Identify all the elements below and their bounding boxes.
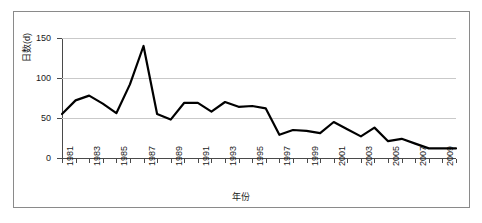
x-tick-mark-2007 (415, 159, 416, 163)
x-tick-mark-1994 (239, 159, 240, 163)
line-series-日数 (62, 38, 456, 158)
x-tick-mark-2005 (388, 159, 389, 163)
x-tick-mark-1982 (76, 159, 77, 163)
x-tick-mark-1983 (89, 159, 90, 163)
x-tick-mark-2004 (374, 159, 375, 163)
x-tick-mark-1981 (62, 159, 63, 163)
x-tick-mark-1992 (211, 159, 212, 163)
x-tick-mark-2006 (402, 159, 403, 163)
x-tick-mark-2009 (442, 159, 443, 163)
x-tick-mark-1993 (225, 159, 226, 163)
x-tick-mark-2000 (320, 159, 321, 163)
y-tick-label-50: 50 (17, 114, 51, 123)
x-tick-mark-1999 (307, 159, 308, 163)
y-tick-label-0: 0 (17, 154, 51, 163)
x-axis-title: 年份 (0, 190, 482, 203)
x-tick-mark-1995 (252, 159, 253, 163)
x-tick-mark-2008 (429, 159, 430, 163)
x-tick-mark-2002 (347, 159, 348, 163)
x-tick-mark-1988 (157, 159, 158, 163)
x-tick-mark-1986 (130, 159, 131, 163)
x-tick-mark-1991 (198, 159, 199, 163)
y-tick-label-150: 150 (17, 34, 51, 43)
x-tick-mark-2001 (334, 159, 335, 163)
x-tick-mark-1990 (184, 159, 185, 163)
x-tick-mark-1998 (293, 159, 294, 163)
x-tick-mark-2003 (361, 159, 362, 163)
x-tick-mark-2010 (456, 159, 457, 163)
y-tick-label-100: 100 (17, 74, 51, 83)
x-tick-mark-1987 (144, 159, 145, 163)
x-tick-mark-1996 (266, 159, 267, 163)
chart-figure: 日数(d) 年份 050100150 198119831985198719891… (0, 0, 482, 223)
x-tick-mark-1997 (279, 159, 280, 163)
x-tick-mark-1985 (116, 159, 117, 163)
x-tick-mark-1989 (171, 159, 172, 163)
x-tick-mark-1984 (103, 159, 104, 163)
plot-area (62, 38, 456, 158)
